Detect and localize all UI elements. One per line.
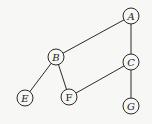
node-a: A: [123, 8, 139, 24]
node-label: E: [20, 93, 29, 104]
node-label: B: [51, 52, 59, 63]
node-c: C: [123, 54, 139, 70]
node-e: E: [17, 90, 33, 106]
nodes: ABCEFG: [17, 8, 139, 114]
edge-c-f: [69, 62, 131, 97]
edges: [25, 16, 131, 106]
node-f: F: [61, 89, 77, 105]
node-g: G: [123, 98, 139, 114]
node-label: C: [127, 57, 135, 68]
graph-diagram: ABCEFG: [0, 0, 152, 124]
node-b: B: [48, 49, 64, 65]
node-label: A: [126, 11, 134, 22]
node-label: F: [66, 92, 73, 103]
edge-a-b: [56, 16, 131, 57]
node-label: G: [127, 101, 135, 112]
